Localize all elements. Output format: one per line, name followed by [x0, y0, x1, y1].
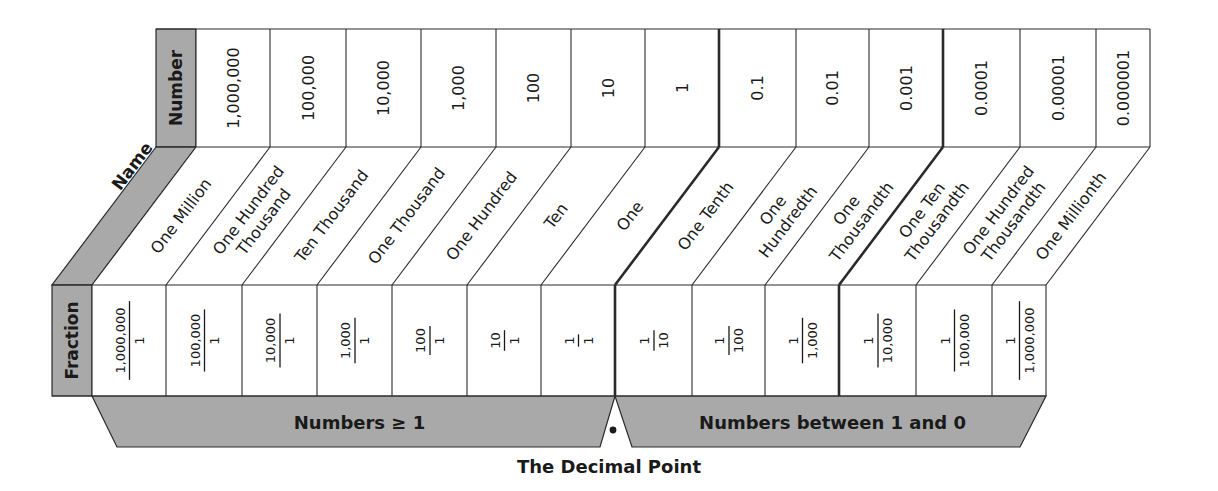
number-cell: 0.1: [748, 75, 767, 100]
fraction-denominator: 1: [282, 336, 297, 344]
fraction-denominator: 1: [581, 336, 596, 344]
number-cell: 100: [524, 73, 543, 104]
fraction-denominator: 1: [207, 336, 222, 344]
place-value-chart: NumberNameFraction1,000,000One Million1,…: [0, 0, 1218, 491]
band-left-label: Numbers ≥ 1: [294, 412, 425, 433]
number-cell: 0.00001: [1049, 55, 1068, 121]
number-cell: 10: [599, 78, 618, 98]
number-cell: 100,000: [299, 55, 318, 121]
number-cell: 1,000,000: [224, 47, 243, 128]
fraction-denominator: 100,000: [957, 314, 972, 368]
fraction-numerator: 1: [562, 336, 577, 344]
fraction-numerator: 1: [1003, 336, 1018, 344]
decimal-point-dot-icon: [610, 427, 617, 434]
fraction-denominator: 1: [507, 336, 522, 344]
fraction-numerator: 1,000,000: [113, 307, 128, 373]
fraction-row-header-label: Fraction: [62, 301, 82, 379]
fraction-numerator: 10: [488, 332, 503, 349]
number-cell: 0.0001: [972, 60, 991, 116]
fraction-numerator: 10,000: [263, 318, 278, 364]
fraction-denominator: 10: [656, 332, 671, 349]
fraction-numerator: 1: [861, 336, 876, 344]
number-cell: 10,000: [374, 60, 393, 116]
number-cell: 0.000001: [1114, 50, 1133, 126]
fraction-numerator: 1,000: [338, 322, 353, 359]
fraction-numerator: 1: [938, 336, 953, 344]
fraction-numerator: 1: [786, 336, 801, 344]
fraction-numerator: 1: [637, 336, 652, 344]
band-right-label: Numbers between 1 and 0: [699, 412, 966, 433]
fraction-denominator: 1: [132, 336, 147, 344]
number-cell: 1,000: [449, 65, 468, 111]
decimal-point-caption: The Decimal Point: [0, 456, 1218, 477]
number-cell: 1: [673, 83, 692, 93]
fraction-denominator: 1: [357, 336, 372, 344]
fraction-numerator: 100,000: [188, 314, 203, 368]
fraction-denominator: 1: [432, 336, 447, 344]
number-row-header-label: Number: [166, 49, 186, 126]
fraction-denominator: 100: [731, 328, 746, 353]
number-cell: 0.001: [897, 65, 916, 111]
fraction-denominator: 10,000: [880, 318, 895, 364]
number-cell: 0.01: [823, 70, 842, 106]
fraction-denominator: 1,000,000: [1022, 307, 1037, 373]
fraction-denominator: 1,000: [805, 322, 820, 359]
fraction-numerator: 1: [712, 336, 727, 344]
fraction-numerator: 100: [413, 328, 428, 353]
